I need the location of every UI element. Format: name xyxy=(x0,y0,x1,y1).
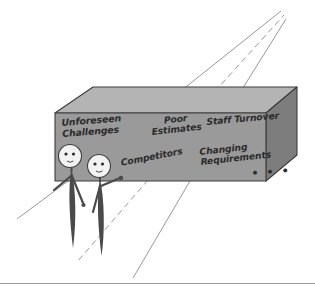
perspective-line-dashed-lower xyxy=(77,180,148,262)
perspective-line-1 xyxy=(172,11,281,98)
stick-figure-left-eye-right xyxy=(72,152,75,155)
bottom-divider xyxy=(0,283,315,284)
stick-figure-right-eye-left xyxy=(93,162,96,165)
illustration-canvas: Unforeseen Challenges Poor Estimates Sta… xyxy=(0,0,315,294)
stick-figure-right-hand-right xyxy=(119,176,123,180)
stick-figure-left-head xyxy=(59,145,82,168)
perspective-line-3 xyxy=(17,178,72,219)
perspective-line-dashed-upper xyxy=(208,15,284,99)
stick-figure-left-eye-left xyxy=(64,152,67,155)
stick-figure-left-hand-right xyxy=(81,203,85,207)
box-top-face xyxy=(55,87,297,113)
stick-figure-right-eye-right xyxy=(101,162,104,165)
stick-figure-right-head xyxy=(88,155,111,178)
perspective-line-4 xyxy=(133,181,190,278)
stick-figure-left xyxy=(54,145,86,249)
perspective-lines-upper xyxy=(172,11,286,99)
